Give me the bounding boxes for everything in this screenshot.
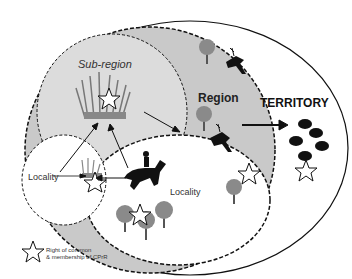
locality-bottom-boundary xyxy=(86,135,270,265)
locality-bottom-label: Locality xyxy=(170,187,201,197)
legend-text: Right of common & membership of CPrR xyxy=(46,247,108,261)
legend-star-icon xyxy=(22,241,44,262)
legend-line-1: Right of common xyxy=(46,247,108,254)
territory-diagram xyxy=(0,0,352,279)
subregion-label: Sub-region xyxy=(78,58,132,70)
legend-line-2: & membership of CPrR xyxy=(46,254,108,261)
region-label: Region xyxy=(198,91,239,105)
territory-label: TERRITORY xyxy=(260,96,329,110)
locality-left-label: Locality xyxy=(28,172,59,182)
